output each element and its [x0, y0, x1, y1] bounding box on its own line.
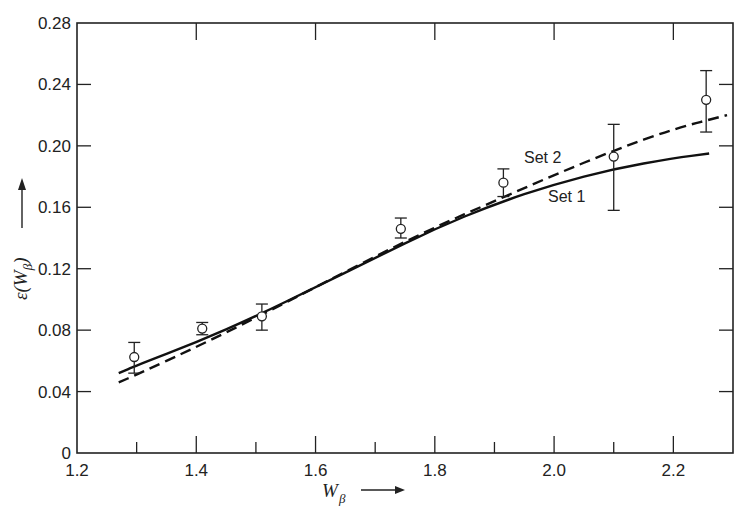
- x-axis-arrow-icon: [361, 486, 405, 494]
- open-circle-marker-icon: [499, 178, 508, 187]
- x-axis-ticks: 1.21.41.61.82.02.2: [65, 23, 685, 480]
- open-circle-marker-icon: [198, 324, 207, 333]
- set2-curve: [119, 115, 727, 382]
- y-tick-label: 0.04: [38, 383, 71, 402]
- data-points: [128, 71, 712, 374]
- y-tick-label: 0.12: [38, 260, 71, 279]
- x-tick-label: 1.4: [184, 461, 208, 480]
- x-tick-label: 1.8: [423, 461, 447, 480]
- set1-label: Set 1: [548, 188, 585, 205]
- y-axis-label: ε(Wβ): [10, 258, 35, 300]
- set1-curve: [119, 154, 709, 374]
- y-tick-label: 0.20: [38, 137, 71, 156]
- y-axis-text: ε(Wβ): [10, 258, 35, 300]
- x-tick-label: 1.6: [304, 461, 328, 480]
- open-circle-marker-icon: [609, 152, 618, 161]
- y-tick-label: 0.24: [38, 75, 71, 94]
- y-axis-ticks: 00.040.080.120.160.200.240.28: [38, 14, 733, 463]
- x-axis-label: W β: [322, 480, 405, 506]
- y-tick-label: 0.08: [38, 321, 71, 340]
- x-axis-symbol: W: [322, 480, 340, 501]
- data-point: [196, 322, 208, 334]
- x-tick-label: 1.2: [65, 461, 89, 480]
- y-tick-label: 0.16: [38, 198, 71, 217]
- set2-label: Set 2: [524, 149, 561, 166]
- x-axis-subscript: β: [338, 491, 346, 506]
- data-point: [497, 169, 509, 197]
- open-circle-marker-icon: [396, 224, 405, 233]
- x-tick-label: 2.2: [662, 461, 686, 480]
- curves: [119, 115, 727, 382]
- y-tick-label: 0.28: [38, 14, 71, 33]
- open-circle-marker-icon: [130, 353, 139, 362]
- open-circle-marker-icon: [257, 312, 266, 321]
- y-axis-arrow-icon: [18, 178, 26, 228]
- chart: 00.040.080.120.160.200.240.28 1.21.41.61…: [0, 0, 749, 514]
- data-point: [256, 304, 268, 330]
- open-circle-marker-icon: [702, 95, 711, 104]
- y-axis-close: ): [10, 258, 32, 265]
- x-tick-label: 2.0: [542, 461, 566, 480]
- data-point: [395, 218, 407, 238]
